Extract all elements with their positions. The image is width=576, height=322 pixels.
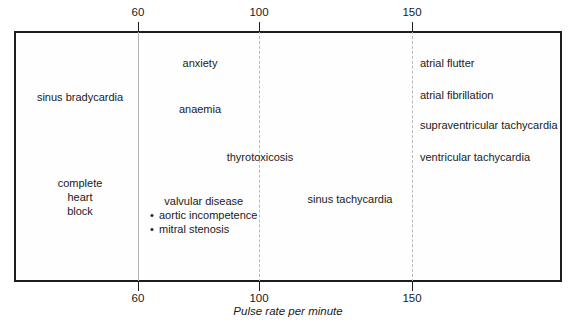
valvular-disease-item-label: mitral stenosis — [159, 223, 229, 235]
bullet-icon: • — [150, 222, 159, 236]
condition-supraventricular-tachycardia: supraventricular tachycardia — [420, 118, 558, 132]
tick-label-bottom-60: 60 — [118, 292, 158, 305]
tick-label-top-100: 100 — [239, 6, 279, 19]
condition-atrial-flutter: atrial flutter — [420, 56, 474, 70]
tick-bottom-150 — [412, 281, 413, 291]
tick-bottom-60 — [138, 281, 139, 291]
guide-line-150 — [412, 31, 413, 282]
condition-complete-heart-block-line2: heart — [67, 190, 92, 204]
valvular-disease-item-aortic-incompetence: •aortic incompetence — [150, 208, 257, 222]
condition-anxiety: anxiety — [183, 56, 218, 70]
condition-atrial-fibrillation: atrial fibrillation — [420, 88, 493, 102]
tick-bottom-100 — [259, 281, 260, 291]
guide-line-60 — [138, 31, 139, 282]
valvular-disease-item-label: aortic incompetence — [159, 209, 257, 221]
tick-label-bottom-100: 100 — [239, 292, 279, 305]
bullet-icon: • — [150, 208, 159, 222]
condition-sinus-bradycardia: sinus bradycardia — [37, 90, 123, 104]
tick-label-top-60: 60 — [118, 6, 158, 19]
valvular-disease-heading: valvular disease — [150, 194, 257, 208]
condition-group-valvular-disease: valvular disease •aortic incompetence •m… — [150, 194, 257, 236]
condition-thyrotoxicosis: thyrotoxicosis — [227, 150, 294, 164]
tick-top-60 — [138, 22, 139, 32]
valvular-disease-item-mitral-stenosis: •mitral stenosis — [150, 222, 257, 236]
condition-sinus-tachycardia: sinus tachycardia — [308, 192, 393, 206]
tick-top-150 — [412, 22, 413, 32]
condition-anaemia: anaemia — [179, 102, 221, 116]
condition-ventricular-tachycardia: ventricular tachycardia — [420, 150, 530, 164]
tick-top-100 — [259, 22, 260, 32]
axis-caption: Pulse rate per minute — [0, 305, 576, 317]
condition-complete-heart-block-line3: block — [67, 204, 93, 218]
condition-complete-heart-block-line1: complete — [58, 176, 103, 190]
tick-label-top-150: 150 — [392, 6, 432, 19]
pulse-rate-diagram: 60 100 150 60 100 150 Pulse rate per min… — [0, 0, 576, 322]
tick-label-bottom-150: 150 — [392, 292, 432, 305]
